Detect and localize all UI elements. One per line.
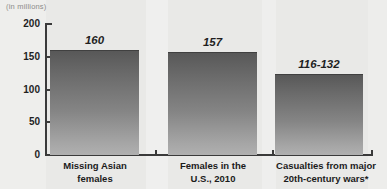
- x-axis-tick: [371, 150, 373, 155]
- y-axis-tick-label: 0: [0, 149, 40, 160]
- bar-value-label: 157: [168, 36, 257, 48]
- y-axis-tick-label: 50: [0, 116, 40, 127]
- bar: [168, 52, 257, 155]
- y-axis-tick: [45, 23, 52, 25]
- bar: [50, 50, 139, 155]
- x-axis-category-label: Missing Asian females: [36, 160, 154, 185]
- y-axis-tick-label: 150: [0, 51, 40, 62]
- bar-value-label: 116-132: [275, 58, 363, 70]
- y-axis-tick-label: 100: [0, 84, 40, 95]
- x-axis-category-label: Casualties from major 20th-century wars*: [266, 160, 386, 185]
- y-axis-tick-label: 200: [0, 18, 40, 29]
- bar: [275, 74, 363, 155]
- x-axis-tick: [155, 150, 157, 155]
- x-axis-category-label: Females in the U.S., 2010: [154, 160, 272, 185]
- x-axis-tick: [272, 150, 274, 155]
- plot-area: 200150100500 160157116-132 Missing Asian…: [0, 0, 387, 189]
- bar-value-label: 160: [50, 34, 139, 46]
- bar-chart: (in millions) 200150100500 160157116-132…: [0, 0, 387, 189]
